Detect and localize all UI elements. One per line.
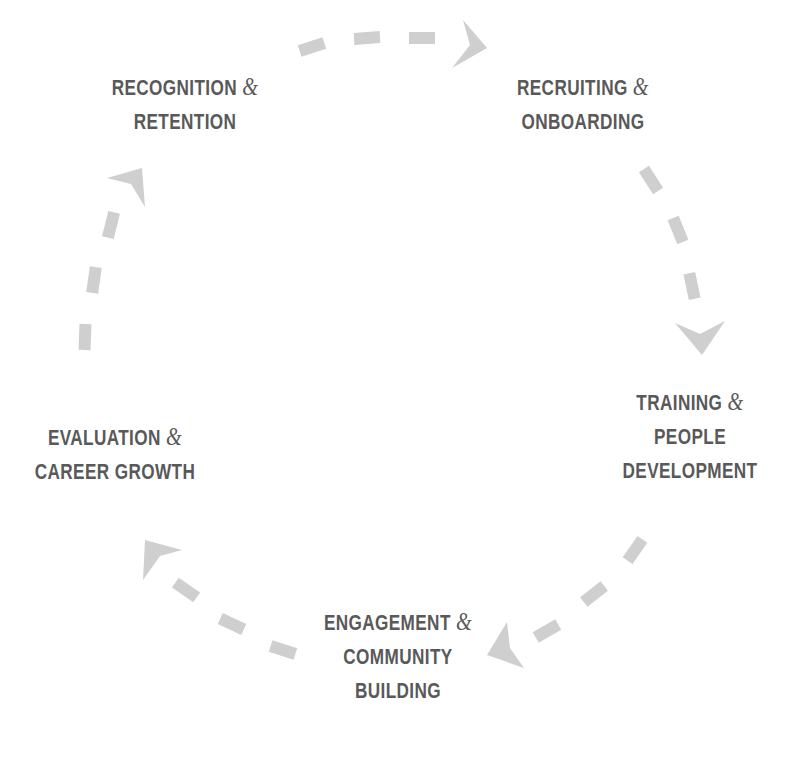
stage-title-line: ENGAGEMENT bbox=[324, 610, 451, 635]
arrowhead-up-icon bbox=[107, 168, 145, 207]
stage-training-people-development: TRAINING & PEOPLE DEVELOPMENT bbox=[608, 385, 772, 488]
stage-title-line: EVALUATION bbox=[48, 425, 161, 450]
stage-title-line: DEVELOPMENT bbox=[608, 454, 772, 488]
arrowhead-down-left-icon bbox=[487, 622, 524, 668]
ampersand: & bbox=[633, 72, 649, 101]
stage-title-line: COMMUNITY bbox=[308, 640, 487, 674]
ampersand: & bbox=[456, 607, 472, 636]
ampersand: & bbox=[728, 387, 744, 416]
stage-title-line: RETENTION bbox=[103, 105, 267, 139]
arrowhead-down-icon bbox=[675, 321, 725, 355]
stage-title-line: PEOPLE bbox=[608, 420, 772, 454]
stage-title-line: CAREER GROWTH bbox=[25, 455, 204, 489]
connector-recognition-to-recruiting bbox=[298, 20, 487, 68]
connector-training-to-engagement bbox=[487, 536, 647, 668]
stage-title-line: RECOGNITION bbox=[112, 75, 237, 100]
connector-recruiting-to-training bbox=[639, 166, 725, 355]
stage-engagement-community-building: ENGAGEMENT & COMMUNITY BUILDING bbox=[308, 605, 487, 708]
stage-title-line: BUILDING bbox=[308, 674, 487, 708]
stage-recognition-retention: RECOGNITION & RETENTION bbox=[103, 70, 267, 139]
stage-recruiting-onboarding: RECRUITING & ONBOARDING bbox=[501, 70, 665, 139]
arrowhead-up-left-icon bbox=[143, 540, 182, 580]
stage-title-line: RECRUITING bbox=[517, 75, 628, 100]
ampersand: & bbox=[166, 422, 182, 451]
arrowhead-right-icon bbox=[452, 20, 487, 68]
stage-title-line: ONBOARDING bbox=[501, 105, 665, 139]
connector-engagement-to-evaluation bbox=[143, 540, 297, 660]
stage-evaluation-career-growth: EVALUATION & CAREER GROWTH bbox=[25, 420, 204, 489]
ampersand: & bbox=[242, 72, 258, 101]
stage-title-line: TRAINING bbox=[636, 390, 722, 415]
connector-evaluation-to-recognition bbox=[79, 168, 145, 350]
